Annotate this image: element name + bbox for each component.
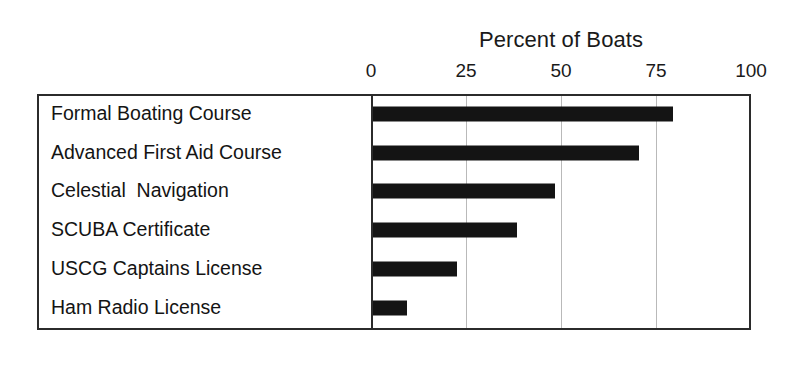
x-tick-label: 75 xyxy=(645,60,666,82)
chart-title: Percent of Boats xyxy=(371,27,751,53)
category-label: USCG Captains License xyxy=(51,259,262,279)
category-label: Celestial Navigation xyxy=(51,182,229,202)
category-row: Celestial Navigation xyxy=(39,172,749,211)
plot-area: Formal Boating CourseAdvanced First Aid … xyxy=(37,94,751,330)
category-row: Advanced First Aid Course xyxy=(39,133,749,172)
category-row: USCG Captains License xyxy=(39,249,749,288)
bar xyxy=(373,223,517,238)
x-axis-tick-labels: 0255075100 xyxy=(371,60,751,84)
bar xyxy=(373,145,639,160)
category-label: Formal Boating Course xyxy=(51,104,252,124)
category-row: SCUBA Certificate xyxy=(39,211,749,250)
bar xyxy=(373,184,555,199)
x-tick-label: 50 xyxy=(550,60,571,82)
bar xyxy=(373,300,407,315)
category-label: Advanced First Aid Course xyxy=(51,143,282,163)
x-tick-label: 100 xyxy=(735,60,767,82)
x-tick-label: 0 xyxy=(366,60,377,82)
x-tick-label: 25 xyxy=(455,60,476,82)
bar xyxy=(373,261,457,276)
bar-chart-figure: Percent of Boats 0255075100 Formal Boati… xyxy=(0,0,785,366)
category-label: SCUBA Certificate xyxy=(51,220,210,240)
category-label: Ham Radio License xyxy=(51,298,221,318)
category-row: Formal Boating Course xyxy=(39,95,749,134)
bar xyxy=(373,107,673,122)
category-row: Ham Radio License xyxy=(39,288,749,327)
